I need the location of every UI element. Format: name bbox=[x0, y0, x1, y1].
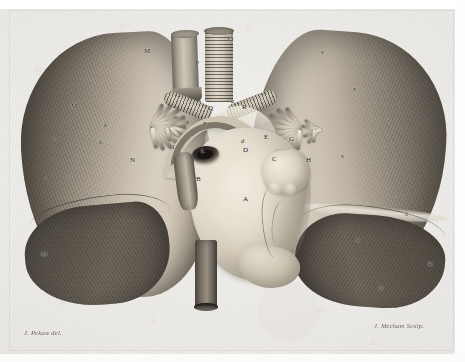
reference-label-s3: s bbox=[396, 158, 399, 165]
reference-label-p: P bbox=[195, 60, 199, 67]
reference-label-k2: k bbox=[99, 139, 102, 145]
reference-label-s2: s bbox=[353, 86, 356, 93]
reference-label-d2: d bbox=[241, 138, 244, 144]
reference-label-n: N bbox=[130, 157, 135, 164]
descending-vessel-cut-end bbox=[194, 303, 218, 311]
reference-label-s4: s bbox=[341, 153, 344, 160]
left-hilar-vessel-fan bbox=[152, 126, 153, 127]
trachea-cut-end bbox=[204, 27, 234, 35]
reference-label-ra: a bbox=[231, 98, 234, 104]
margin-right bbox=[455, 0, 465, 362]
reference-label-q: Q bbox=[208, 105, 213, 112]
artist-signature: J. Pekaw del. bbox=[24, 329, 62, 336]
reference-label-o: O bbox=[228, 36, 233, 43]
reference-label-r2: R bbox=[428, 261, 433, 268]
reference-label-c: C bbox=[272, 156, 277, 163]
reference-label-k1: k bbox=[104, 122, 107, 128]
reference-label-a: A bbox=[243, 196, 248, 203]
descending-vessel bbox=[195, 240, 217, 308]
reference-label-i: I bbox=[172, 144, 175, 151]
reference-label-n2: N bbox=[379, 285, 383, 291]
reference-label-r: R bbox=[242, 104, 247, 111]
reference-label-a2: A bbox=[356, 237, 360, 243]
reference-label-l1: l bbox=[45, 175, 47, 181]
reference-label-m2: M bbox=[71, 103, 77, 110]
margin-top bbox=[0, 0, 465, 9]
reference-label-b: B bbox=[196, 176, 201, 183]
reference-label-l: L bbox=[201, 148, 205, 155]
anatomical-plate: ABCDEFGHILdOPQRaMMMNkkllsssshARN J. Peka… bbox=[0, 0, 465, 362]
right-hilar-vessel-fan bbox=[300, 128, 301, 129]
reference-label-m1: M bbox=[144, 48, 150, 55]
reference-label-h: H bbox=[306, 157, 311, 164]
engraver-signature: J. Mecham Sculp. bbox=[374, 322, 424, 329]
engraving-stage: ABCDEFGHILdOPQRaMMMNkkllsssshARN bbox=[0, 0, 465, 362]
reference-label-l2: l bbox=[54, 136, 56, 142]
reference-label-h2: h bbox=[405, 211, 408, 217]
reference-label-g: G bbox=[289, 136, 294, 143]
reference-label-m3: M bbox=[41, 251, 47, 258]
reference-label-d: D bbox=[243, 147, 248, 154]
margin-bottom bbox=[0, 354, 465, 362]
reference-label-e: E bbox=[264, 134, 268, 141]
reference-label-f: F bbox=[203, 121, 207, 128]
reference-label-s1: s bbox=[321, 49, 324, 56]
